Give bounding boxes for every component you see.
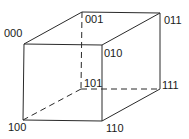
edge-001-101 <box>81 12 82 89</box>
vertex-label-000: 000 <box>4 27 22 39</box>
vertex-label-110: 110 <box>106 122 124 134</box>
edge-101-100 <box>23 89 81 120</box>
edge-000-100 <box>23 44 24 120</box>
cube-svg: 000001011010100110111101 <box>0 0 189 139</box>
edge-000-001 <box>24 12 82 44</box>
vertex-label-011: 011 <box>164 14 182 26</box>
edge-011-010 <box>102 13 160 45</box>
edge-110-111 <box>102 89 160 121</box>
edge-100-110 <box>23 120 102 121</box>
vertex-label-101: 101 <box>84 77 102 89</box>
vertex-label-111: 111 <box>162 79 179 91</box>
edge-010-000 <box>24 44 102 45</box>
vertex-label-100: 100 <box>8 121 26 133</box>
vertex-label-001: 001 <box>85 13 103 25</box>
edges-layer <box>23 12 160 121</box>
labels-layer: 000001011010100110111101 <box>4 13 182 134</box>
cube-diagram: 000001011010100110111101 <box>0 0 189 139</box>
vertex-label-010: 010 <box>104 47 122 59</box>
